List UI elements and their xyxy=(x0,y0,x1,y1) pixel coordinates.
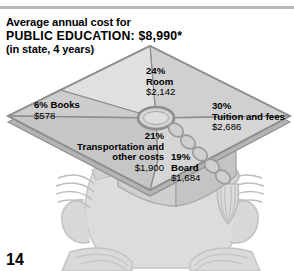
callout-tuition-and-fees: 30% Tuition and fees $2,686 xyxy=(212,101,285,133)
callout-room-value: $2,142 xyxy=(146,87,175,98)
cap-button-inner xyxy=(144,112,169,125)
headline-line-2: PUBLIC EDUCATION: $8,990* xyxy=(6,29,236,43)
page-title: Average annual cost for PUBLIC EDUCATION… xyxy=(6,16,236,56)
callout-board-value: $1,684 xyxy=(171,173,200,184)
callout-tuition-value: $2,686 xyxy=(212,122,285,133)
headline-line-1: Average annual cost for xyxy=(6,16,236,29)
infographic-canvas: Average annual cost for PUBLIC EDUCATION… xyxy=(0,0,294,271)
callout-board: 19% Board $1,684 xyxy=(171,152,200,184)
callout-transportation: 21% Transportation and other costs $1,90… xyxy=(60,131,164,174)
headline-line-3: (in state, 4 years) xyxy=(6,43,236,56)
callout-books: 6% Books $578 xyxy=(34,100,80,121)
page-number: 14 xyxy=(6,252,24,268)
callout-room: 24% Room $2,142 xyxy=(146,66,175,98)
callout-transportation-value: $1,900 xyxy=(60,163,164,174)
callout-books-value: $578 xyxy=(34,111,80,122)
